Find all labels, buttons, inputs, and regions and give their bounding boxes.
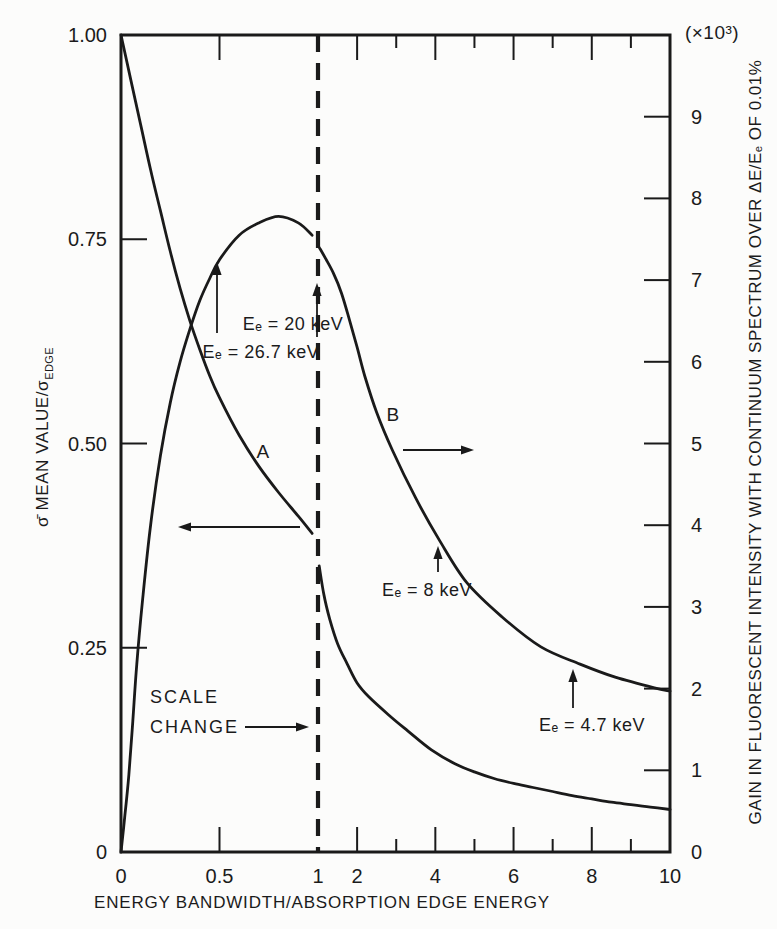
x-tick-label: 0.5 bbox=[206, 865, 234, 887]
left-y-axis-title: σ̄ MEAN VALUE/σEDGE bbox=[33, 347, 54, 527]
curve-b-segment-2 bbox=[319, 247, 670, 691]
left-y-tick-label: 0.75 bbox=[68, 228, 107, 250]
right-y-tick-label: 0 bbox=[691, 841, 702, 863]
left-y-tick-label: 0.25 bbox=[68, 637, 107, 659]
left-y-axis-title-main: σ̄ MEAN VALUE/σ bbox=[33, 380, 52, 527]
right-y-tick-label: 3 bbox=[691, 596, 702, 618]
ee-20kev-arrow-head bbox=[312, 283, 321, 296]
x-tick-label: 8 bbox=[586, 865, 597, 887]
left-y-axis-title-sub: EDGE bbox=[43, 347, 55, 380]
ee-8kev-label: Eₑ = 8 keV bbox=[382, 580, 472, 601]
scale-change-line2: CHANGE bbox=[150, 717, 239, 738]
x-tick-label: 10 bbox=[659, 865, 681, 887]
x-tick-label: 0 bbox=[115, 865, 126, 887]
scale-change-arrow-head bbox=[296, 722, 309, 731]
right-y-axis-title: GAIN IN FLUORESCENT INTENSITY WITH CONTI… bbox=[746, 60, 766, 825]
ee-4-7kev-arrow-head bbox=[568, 669, 577, 682]
right-y-tick-label: 1 bbox=[691, 759, 702, 781]
x-tick-label: 1 bbox=[312, 865, 323, 887]
left-y-tick-label: 0.50 bbox=[68, 433, 107, 455]
ee-26-7kev-label: Eₑ = 26.7 keV bbox=[203, 342, 320, 363]
right-y-tick-label: 5 bbox=[691, 433, 702, 455]
ee-8kev-arrow-head bbox=[433, 546, 442, 559]
left-y-tick-label: 0 bbox=[96, 841, 107, 863]
left-y-tick-label: 1.00 bbox=[68, 24, 107, 46]
chart-canvas: 00.5124681000.250.500.751.000123456789 bbox=[0, 0, 777, 929]
right-y-tick-label: 2 bbox=[691, 678, 702, 700]
curve-a-segment-2 bbox=[319, 566, 670, 810]
right-y-tick-label: 8 bbox=[691, 187, 702, 209]
figure: 00.5124681000.250.500.751.000123456789 σ… bbox=[0, 0, 777, 929]
right-y-tick-label: 9 bbox=[691, 106, 702, 128]
ee-4-7kev-label: Eₑ = 4.7 keV bbox=[539, 715, 645, 736]
curve-b-axis-arrow-head bbox=[461, 445, 474, 454]
curve-a-axis-arrow-head bbox=[178, 522, 191, 531]
x-tick-label: 6 bbox=[508, 865, 519, 887]
curve-b-label: B bbox=[386, 404, 399, 426]
ee-20kev-label: Eₑ = 20 keV bbox=[243, 314, 344, 335]
right-y-tick-label: 7 bbox=[691, 269, 702, 291]
scale-change-line1: SCALE bbox=[150, 687, 219, 708]
right-y-tick-label: 4 bbox=[691, 514, 702, 536]
x-tick-label: 2 bbox=[352, 865, 363, 887]
curve-a-label: A bbox=[256, 441, 269, 463]
x-axis-title: ENERGY BANDWIDTH/ABSORPTION EDGE ENERGY bbox=[94, 893, 550, 913]
right-axis-multiplier: (×10³) bbox=[685, 22, 739, 44]
right-y-tick-label: 6 bbox=[691, 351, 702, 373]
x-tick-label: 4 bbox=[430, 865, 441, 887]
